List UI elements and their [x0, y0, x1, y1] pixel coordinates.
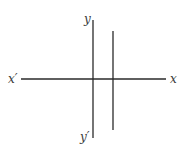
label-y: y: [84, 13, 91, 25]
label-x-prime: x′: [8, 73, 18, 85]
label-y-prime: y′: [80, 131, 90, 143]
diagram: y x′ x y′: [0, 0, 178, 152]
label-x: x: [170, 73, 177, 85]
